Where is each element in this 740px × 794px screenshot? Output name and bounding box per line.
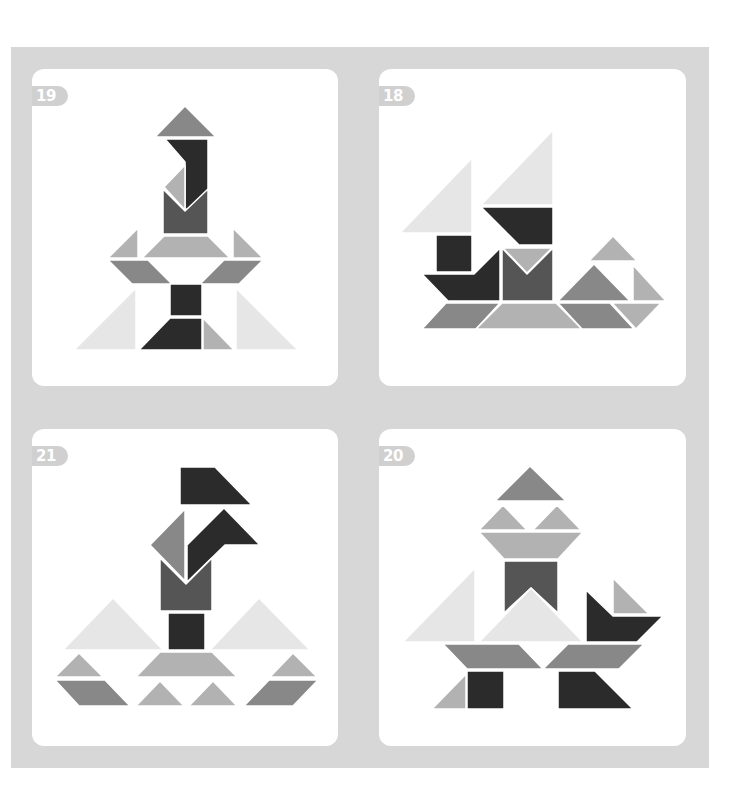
puzzle-card-19: 19 [32, 69, 338, 386]
puzzle-number-badge: 18 [379, 86, 415, 106]
puzzle-card-21: 21 [32, 429, 338, 746]
puzzle-number-badge: 21 [32, 446, 68, 466]
puzzle-number-badge: 20 [379, 446, 415, 466]
puzzle-card-18: 18 [379, 69, 686, 386]
puzzle-card-20: 20 [379, 429, 686, 746]
puzzle-number-badge: 19 [32, 86, 68, 106]
